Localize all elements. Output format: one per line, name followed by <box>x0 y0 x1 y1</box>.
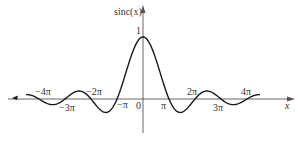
y-axis-label: sinc(x) <box>114 6 142 18</box>
x-tick-neg3pi-label: −3π <box>59 102 75 113</box>
x-tick-2pi-label: 2π <box>187 86 197 97</box>
x-tick-pi-label: π <box>161 100 166 111</box>
x-tick-neg2pi-label: −2π <box>86 86 102 97</box>
origin-label: 0 <box>136 100 141 111</box>
x-tick-4pi-label: 4π <box>241 86 251 97</box>
x-axis-label: x <box>284 100 290 111</box>
x-tick-negpi-label: −π <box>117 99 128 110</box>
x-tick-neg4pi-label: −4π <box>35 86 51 97</box>
y-tick-1-label: 1 <box>136 25 141 36</box>
x-tick-3pi-label: 3π <box>213 102 223 113</box>
sinc-chart: sinc(x) 1 0 x −4π −3π −2π −π π 2π 3π 4π <box>0 0 298 143</box>
